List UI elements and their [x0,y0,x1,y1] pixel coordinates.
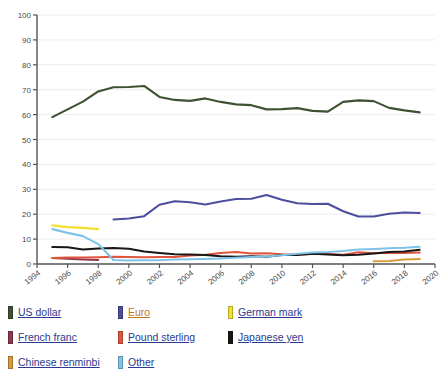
legend-item-label[interactable]: Chinese renminbi [18,357,100,368]
legend-item-french-franc[interactable]: French franc [8,325,118,350]
series-line-german-mark [52,225,98,229]
legend-item-label[interactable]: Pound sterling [128,332,195,343]
x-axis-tick-label: 2012 [298,268,318,286]
legend-swatch-icon [118,306,123,319]
legend-item-pound-sterling[interactable]: Pound sterling [118,325,228,350]
x-axis-tick-label: 2010 [268,268,288,286]
legend-item-euro[interactable]: Euro [118,300,228,325]
series-line-chinese-renminbi [374,259,420,261]
x-axis-tick-label: 2008 [237,268,257,286]
legend-swatch-icon [8,331,13,344]
x-axis-tick-label: 2018 [390,268,410,286]
legend-item-chinese-renminbi[interactable]: Chinese renminbi [8,350,118,373]
y-axis-tick-label: 10 [22,235,31,244]
legend-item-label[interactable]: German mark [238,307,302,318]
x-axis-tick-label: 1996 [53,268,73,286]
legend-item-japanese-yen[interactable]: Japanese yen [228,325,338,350]
series-line-us-dollar [52,86,419,117]
plot-area: 0102030405060708090100199419961998200020… [0,0,444,300]
y-axis-tick-label: 30 [22,185,31,194]
legend-swatch-icon [8,306,13,319]
legend-item-us-dollar[interactable]: US dollar [8,300,118,325]
series-line-euro [114,195,420,219]
legend-item-label[interactable]: US dollar [18,307,61,318]
legend-swatch-icon [118,331,123,344]
y-axis-tick-label: 100 [18,11,32,20]
x-axis-tick-label: 1998 [84,268,104,286]
x-axis-tick-label: 2006 [206,268,226,286]
x-axis-tick-label: 2020 [421,268,441,286]
legend-swatch-icon [228,331,233,344]
legend-item-label[interactable]: Euro [128,307,150,318]
legend-item-label[interactable]: French franc [18,332,77,343]
y-axis-tick-label: 80 [22,61,31,70]
y-axis-tick-label: 50 [22,136,31,145]
legend-swatch-icon [8,356,13,369]
chart-legend: US dollarEuroGerman markFrench francPoun… [8,300,444,373]
y-axis-tick-label: 60 [22,111,31,120]
legend-item-label[interactable]: Japanese yen [238,332,303,343]
x-axis-tick-label: 2000 [115,268,135,286]
legend-item-label[interactable]: Other [128,357,154,368]
legend-item-other[interactable]: Other [118,350,228,373]
y-axis-tick-label: 90 [22,36,31,45]
x-axis-tick-label: 1994 [23,268,43,286]
y-axis-tick-label: 70 [22,86,31,95]
legend-swatch-icon [118,356,123,369]
legend-item-german-mark[interactable]: German mark [228,300,338,325]
y-axis-tick-label: 0 [27,260,32,269]
x-axis-tick-label: 2014 [329,268,349,286]
legend-swatch-icon [228,306,233,319]
y-axis-tick-label: 20 [22,210,31,219]
x-axis-tick-label: 2002 [145,268,165,286]
x-axis-tick-label: 2004 [176,268,196,286]
x-axis-tick-label: 2016 [359,268,379,286]
y-axis-tick-label: 40 [22,160,31,169]
